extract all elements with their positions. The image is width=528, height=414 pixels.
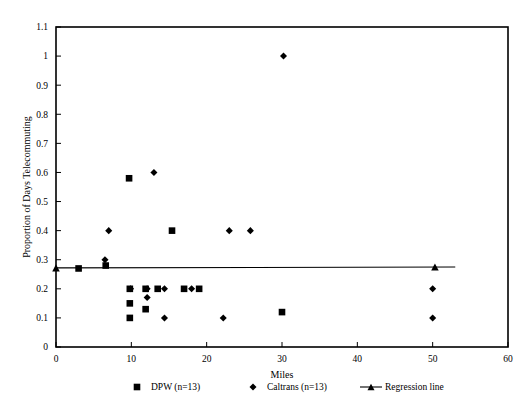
data-point-dpw [75,265,82,272]
data-point-dpw [102,262,109,269]
y-tick-label: 0 [43,342,48,352]
y-tick-label: 0.9 [36,81,48,91]
scatter-chart: 00.10.20.30.40.50.60.70.80.911.1 0102030… [0,0,528,414]
y-tick-label: 0.2 [36,284,48,294]
x-tick-label: 30 [277,354,287,364]
y-tick-label: 0.4 [36,226,48,236]
y-tick-label: 0.6 [36,168,48,178]
data-point-dpw [126,175,133,182]
x-axis-title: Miles [271,369,294,380]
chart-background [0,0,528,414]
data-point-dpw [169,227,176,234]
y-axis-title: Proportion of Days Telecommuting [21,116,32,258]
y-tick-label: 1 [43,51,48,61]
data-point-dpw [127,315,134,322]
chart-canvas: 00.10.20.30.40.50.60.70.80.911.1 0102030… [0,0,528,414]
legend-label-0: DPW (n=13) [151,382,200,393]
x-tick-label: 60 [503,354,513,364]
data-point-dpw [181,286,188,293]
data-point-dpw [142,306,149,313]
legend-marker-square [134,384,141,391]
x-tick-label: 40 [353,354,363,364]
data-point-dpw [154,286,161,293]
data-point-dpw [196,286,203,293]
legend-label-2: Regression line [385,382,444,392]
x-tick-label: 0 [54,354,59,364]
y-tick-label: 0.3 [36,255,48,265]
y-tick-label: 0.8 [36,110,48,120]
data-point-dpw [127,300,134,307]
legend-label-1: Caltrans (n=13) [267,382,327,393]
chart-legend: DPW (n=13)Caltrans (n=13)Regression line [134,382,444,393]
y-tick-label: 0.1 [36,313,48,323]
y-tick-label: 0.7 [36,139,48,149]
data-point-dpw [279,309,286,316]
x-tick-label: 10 [127,354,137,364]
x-tick-label: 50 [428,354,438,364]
x-tick-label: 20 [202,354,212,364]
y-tick-label: 1.1 [36,22,48,32]
y-tick-label: 0.5 [36,197,48,207]
